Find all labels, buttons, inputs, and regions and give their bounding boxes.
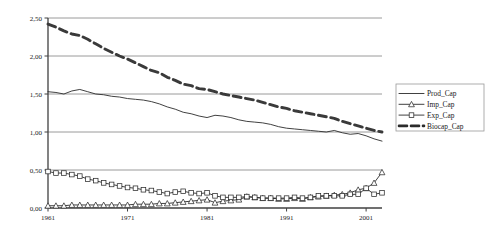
data-point [245, 194, 250, 199]
x-tick-label-1: 1971 [121, 214, 136, 222]
data-point [149, 188, 154, 193]
data-point [141, 187, 146, 192]
data-point [308, 195, 313, 200]
data-point [237, 195, 242, 200]
data-point [324, 194, 329, 199]
x-tick-label-2: 1981 [200, 214, 215, 222]
data-point [54, 171, 59, 176]
y-tick-label-4: 2,00 [30, 53, 43, 61]
data-point [372, 192, 377, 197]
data-point [316, 194, 321, 199]
data-point [117, 184, 122, 189]
y-tick-label-3: 1,50 [30, 91, 43, 99]
data-point [229, 195, 234, 200]
data-point [364, 186, 369, 191]
data-point [205, 191, 210, 196]
legend-marker [409, 113, 414, 118]
legend-label: Imp_Cap [427, 100, 455, 109]
data-point [125, 185, 130, 190]
y-tick-label-0: 0,00 [30, 205, 43, 213]
data-point [332, 194, 337, 199]
x-tick-label-3: 1991 [280, 214, 295, 222]
y-tick-label-1: 0,50 [30, 167, 43, 175]
legend-label: Exp_Cap [427, 111, 455, 120]
data-point [46, 169, 51, 174]
data-point [101, 181, 106, 186]
data-point [78, 174, 83, 179]
data-point [197, 191, 202, 196]
data-point [181, 189, 186, 194]
data-point [93, 178, 98, 183]
legend-label: Prod_Cap [427, 89, 457, 98]
x-tick-label-0: 1961 [41, 214, 56, 222]
line-chart: 0,000,501,001,502,002,50 196119711981199… [0, 0, 492, 241]
data-point [284, 196, 289, 201]
data-point [70, 172, 75, 177]
data-point [165, 191, 170, 196]
data-point [109, 182, 114, 187]
chart-container: 0,000,501,001,502,002,50 196119711981199… [0, 0, 492, 241]
data-point [276, 196, 281, 201]
data-point [173, 190, 178, 195]
legend-label: Biocap_Cap [427, 122, 464, 131]
data-point [292, 195, 297, 200]
data-point [340, 194, 345, 199]
data-point [157, 190, 162, 195]
data-point [252, 195, 257, 200]
data-point [300, 196, 305, 201]
y-tick-label-5: 2,50 [30, 15, 43, 23]
data-point [62, 171, 67, 176]
x-tick-label-4: 2001 [359, 214, 374, 222]
data-point [260, 196, 265, 201]
y-tick-label-2: 1,00 [30, 129, 43, 137]
data-point [356, 192, 361, 197]
data-point [213, 194, 218, 199]
data-point [221, 195, 226, 200]
data-point [268, 196, 273, 201]
data-point [348, 192, 353, 197]
data-point [189, 191, 194, 196]
data-point [133, 186, 138, 191]
data-point [380, 191, 385, 196]
chart-legend: Prod_CapImp_CapExp_CapBiocap_Cap [396, 84, 484, 131]
data-point [85, 177, 90, 182]
